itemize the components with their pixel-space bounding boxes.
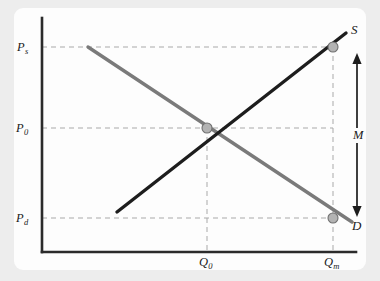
y-axis-label-p-d-sub: d: [24, 217, 28, 227]
y-axis-label-p-0-base: P: [16, 121, 24, 135]
markup-span-arrow-head-up: [352, 53, 361, 64]
x-axis-label-q-0-sub: 0: [208, 261, 212, 271]
supply-curve-label: S: [351, 23, 358, 36]
x-axis-label-q-0: Q0: [199, 256, 212, 269]
markup-span-arrow-head-down: [352, 206, 361, 217]
x-axis-label-q-m-base: Q: [324, 255, 333, 269]
supply-price-point-marker: [328, 42, 338, 52]
demand-price-point-marker: [328, 213, 338, 223]
demand-curve-label: D: [352, 219, 361, 232]
x-axis-label-q-m: Qm: [324, 256, 339, 269]
x-axis-label-q-0-base: Q: [199, 255, 208, 269]
y-axis-label-p-s-sub: s: [25, 46, 28, 56]
equilibrium-point-marker: [202, 123, 212, 133]
x-axis-label-q-m-sub: m: [333, 261, 339, 271]
supply-curve: [117, 33, 346, 212]
y-axis-label-p-0-sub: 0: [24, 127, 28, 137]
chart-plot-area: [0, 0, 380, 281]
y-axis-label-p-d-base: P: [16, 211, 24, 225]
supply-demand-chart: Ps P0 Pd Q0 Qm S D M: [0, 0, 380, 281]
demand-curve: [88, 47, 352, 222]
y-axis-label-p-s-base: P: [17, 40, 25, 54]
markup-span-label: M: [351, 128, 365, 143]
y-axis-label-p-s: Ps: [17, 41, 28, 54]
y-axis-label-p-0: P0: [16, 122, 28, 135]
y-axis-label-p-d: Pd: [16, 212, 28, 225]
